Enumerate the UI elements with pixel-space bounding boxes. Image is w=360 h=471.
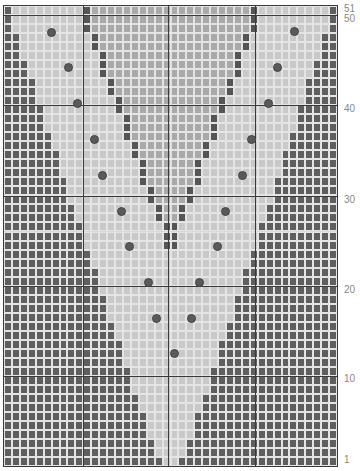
chart-cell (289, 114, 297, 123)
chart-cell (28, 259, 36, 268)
chart-cell (163, 69, 171, 78)
chart-cell (20, 87, 28, 96)
chart-cell (266, 232, 274, 241)
chart-cell (321, 87, 329, 96)
chart-cell (28, 87, 36, 96)
chart-cell (123, 367, 131, 376)
chart-cell (321, 96, 329, 105)
chart-cell (20, 33, 28, 42)
chart-cell (52, 60, 60, 69)
chart-cell (274, 168, 282, 177)
chart-cell (44, 15, 52, 24)
chart-cell (4, 141, 12, 150)
chart-cell (139, 51, 147, 60)
chart-cell (226, 394, 234, 403)
bobble-dot-icon (90, 135, 99, 144)
chart-cell (163, 241, 171, 250)
chart-cell (123, 421, 131, 430)
chart-cell (115, 412, 123, 421)
chart-cell (289, 123, 297, 132)
chart-cell (12, 186, 20, 195)
chart-cell (115, 60, 123, 69)
chart-cell (282, 24, 290, 33)
chart-cell (234, 358, 242, 367)
chart-cell (274, 150, 282, 159)
chart-cell (60, 186, 68, 195)
chart-cell (28, 268, 36, 277)
chart-cell (20, 42, 28, 51)
chart-cell (258, 412, 266, 421)
chart-cell (305, 277, 313, 286)
chart-cell (147, 132, 155, 141)
chart-cell (226, 6, 234, 15)
chart-cell (266, 277, 274, 286)
chart-cell (218, 78, 226, 87)
chart-cell (123, 331, 131, 340)
chart-cell (329, 78, 337, 87)
chart-cell (234, 6, 242, 15)
row-label: 1 (344, 455, 350, 465)
chart-cell (115, 132, 123, 141)
chart-cell (60, 241, 68, 250)
chart-cell (218, 186, 226, 195)
chart-cell (321, 250, 329, 259)
chart-cell (115, 15, 123, 24)
chart-cell (194, 204, 202, 213)
chart-cell (297, 78, 305, 87)
chart-cell (52, 114, 60, 123)
chart-cell (155, 159, 163, 168)
chart-cell (155, 24, 163, 33)
chart-cell (242, 358, 250, 367)
chart-cell (305, 448, 313, 457)
chart-cell (155, 277, 163, 286)
chart-cell (258, 439, 266, 448)
chart-cell (20, 259, 28, 268)
chart-cell (258, 60, 266, 69)
chart-cell (28, 277, 36, 286)
chart-cell (313, 367, 321, 376)
chart-cell (91, 430, 99, 439)
chart-cell (305, 295, 313, 304)
chart-cell (139, 367, 147, 376)
chart-cell (258, 457, 266, 466)
chart-cell (305, 421, 313, 430)
chart-cell (155, 42, 163, 51)
chart-cell (52, 6, 60, 15)
chart-cell (115, 313, 123, 322)
chart-cell (202, 376, 210, 385)
chart-cell (12, 349, 20, 358)
chart-cell (107, 412, 115, 421)
chart-cell (131, 340, 139, 349)
chart-cell (99, 87, 107, 96)
chart-cell (305, 439, 313, 448)
chart-cell (234, 213, 242, 222)
chart-cell (36, 349, 44, 358)
chart-cell (107, 96, 115, 105)
chart-cell (91, 448, 99, 457)
chart-cell (210, 168, 218, 177)
chart-cell (131, 232, 139, 241)
chart-cell (52, 304, 60, 313)
chart-cell (107, 376, 115, 385)
chart-cell (12, 168, 20, 177)
chart-cell (258, 204, 266, 213)
chart-cell (52, 349, 60, 358)
chart-cell (60, 250, 68, 259)
chart-cell (242, 430, 250, 439)
chart-cell (60, 159, 68, 168)
chart-cell (266, 268, 274, 277)
chart-cell (67, 457, 75, 466)
bobble-dot-icon (144, 278, 153, 287)
chart-cell (99, 349, 107, 358)
chart-cell (266, 439, 274, 448)
chart-cell (171, 439, 179, 448)
chart-cell (305, 340, 313, 349)
chart-cell (297, 105, 305, 114)
chart-cell (282, 105, 290, 114)
chart-cell (274, 232, 282, 241)
chart-cell (258, 448, 266, 457)
chart-cell (163, 6, 171, 15)
chart-cell (234, 60, 242, 69)
chart-cell (266, 114, 274, 123)
chart-cell (36, 87, 44, 96)
